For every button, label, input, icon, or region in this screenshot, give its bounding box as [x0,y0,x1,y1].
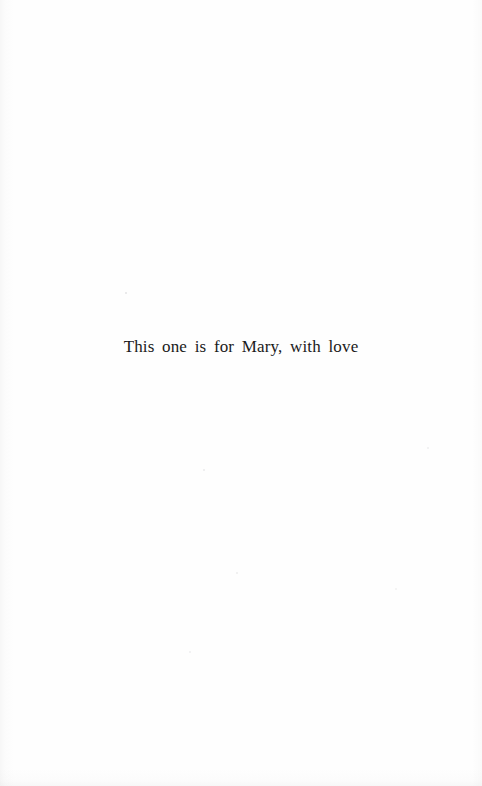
scan-speck [125,292,127,294]
dedication-page: This one is for Mary, with love [0,0,482,786]
dedication-text: This one is for Mary, with love [124,336,359,357]
scan-speck [395,588,397,590]
scan-speck [427,447,429,449]
scan-speck [203,469,205,471]
scan-grain-overlay [0,0,482,786]
scan-speck [236,572,238,574]
scan-speck [189,651,191,653]
dedication-block: This one is for Mary, with love [0,336,482,357]
